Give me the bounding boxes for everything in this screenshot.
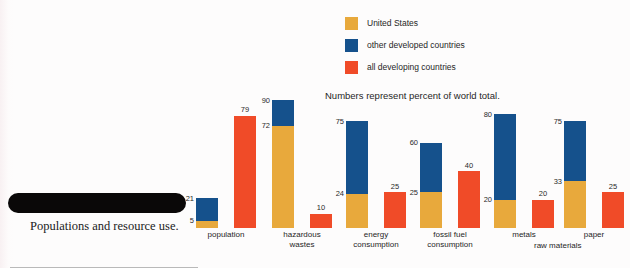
stacked-bar: 6025: [420, 143, 442, 228]
bar-value-label: 79: [241, 106, 249, 114]
legend-item: United States: [345, 14, 465, 32]
bar-value-label: 10: [317, 204, 325, 212]
legend-label: all developing countries: [367, 62, 456, 72]
bar-chart: 21579population907210hazardouswastes7524…: [188, 100, 630, 260]
category-label: metals: [494, 230, 554, 240]
bar-value-label: 25: [391, 183, 399, 191]
bar-segment-united-states: [272, 126, 294, 228]
stacked-bar: 8020: [494, 114, 516, 228]
bar-group: 602540fossil fuelconsumption: [420, 100, 480, 228]
bar-value-label: 25: [609, 183, 617, 191]
bar-segment-united-states: [494, 200, 516, 228]
bar-value-label: 20: [484, 196, 492, 204]
category-label-line: paper: [564, 230, 624, 240]
developing-countries-bar: 25: [602, 192, 624, 228]
developing-countries-bar: 10: [310, 214, 332, 228]
category-label: energyconsumption: [346, 230, 406, 250]
stacked-bar: 7533: [564, 121, 586, 228]
category-label: paper: [564, 230, 624, 240]
bar-segment-united-states: [564, 181, 586, 228]
bar-segment-other-developed: [494, 114, 516, 199]
legend-item: other developed countries: [345, 36, 465, 54]
group-span-label-raw-materials: raw materials: [534, 241, 582, 250]
legend-swatch-icon: [345, 39, 358, 52]
category-label-line: energy: [346, 230, 406, 240]
bar-value-label: 90: [262, 97, 270, 105]
bar-value-label: 75: [554, 118, 562, 126]
category-label-line: consumption: [420, 240, 480, 250]
category-label-line: metals: [494, 230, 554, 240]
bar-value-label: 33: [554, 178, 562, 186]
legend-label: other developed countries: [367, 40, 465, 50]
bar-value-label: 60: [410, 139, 418, 147]
legend-label: United States: [367, 18, 418, 28]
bar-segment-other-developed: [564, 121, 586, 181]
bar-value-label: 75: [336, 118, 344, 126]
legend-item: all developing countries: [345, 58, 465, 76]
redaction-bar: [8, 193, 186, 213]
bar-segment-other-developed: [346, 121, 368, 194]
legend-swatch-icon: [345, 17, 358, 30]
developing-countries-bar: 20: [532, 200, 554, 228]
category-label-line: wastes: [272, 240, 332, 250]
category-label-line: fossil fuel: [420, 230, 480, 240]
bar-group: 753325paper: [564, 100, 624, 228]
bar-value-label: 24: [336, 190, 344, 198]
bar-value-label: 21: [186, 195, 194, 203]
bar-value-label: 25: [410, 189, 418, 197]
bar-group: 907210hazardouswastes: [272, 100, 332, 228]
bar-value-label: 5: [190, 217, 194, 225]
category-label: fossil fuelconsumption: [420, 230, 480, 250]
bar-segment-united-states: [196, 221, 218, 228]
stacked-bar: 9072: [272, 100, 294, 228]
developing-countries-bar: 40: [458, 171, 480, 228]
caption-block: Populations and resource use.: [8, 193, 198, 234]
bar-value-label: 20: [539, 190, 547, 198]
caption-text: Populations and resource use.: [8, 219, 190, 234]
bar-segment-other-developed: [196, 198, 218, 221]
bar-segment-united-states: [346, 194, 368, 228]
bar-group: 752425energyconsumption: [346, 100, 406, 228]
bar-segment-other-developed: [420, 143, 442, 193]
chart-legend: United Statesother developed countriesal…: [345, 14, 465, 80]
chart-plot-area: 21579population907210hazardouswastes7524…: [188, 100, 630, 228]
bar-value-label: 72: [262, 122, 270, 130]
category-label-line: hazardous: [272, 230, 332, 240]
category-label-line: population: [196, 230, 256, 240]
legend-swatch-icon: [345, 61, 358, 74]
bar-segment-other-developed: [272, 100, 294, 126]
bar-value-label: 40: [465, 162, 473, 170]
bar-group: 802020metals: [494, 100, 554, 228]
developing-countries-bar: 79: [234, 116, 256, 228]
stacked-bar: 215: [196, 198, 218, 228]
category-label-line: consumption: [346, 240, 406, 250]
category-label: hazardouswastes: [272, 230, 332, 250]
developing-countries-bar: 25: [384, 192, 406, 228]
bar-segment-united-states: [420, 192, 442, 228]
category-label: population: [196, 230, 256, 240]
stacked-bar: 7524: [346, 121, 368, 228]
bar-group: 21579population: [196, 100, 256, 228]
bar-value-label: 80: [484, 111, 492, 119]
